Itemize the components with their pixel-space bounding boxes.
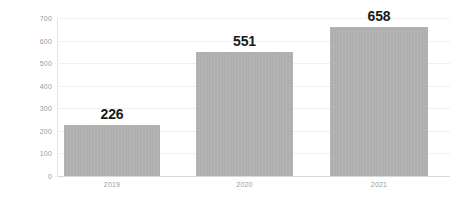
bar-value-label: 658 xyxy=(330,8,428,24)
bar xyxy=(196,52,293,176)
y-axis-tick-labels: 7006005004003002001000 xyxy=(0,18,52,176)
y-axis-tick-label: 200 xyxy=(6,127,52,134)
bar xyxy=(64,125,160,176)
x-axis-category-label: 2019 xyxy=(64,181,160,188)
y-axis-tick-label: 300 xyxy=(6,105,52,112)
y-axis-tick-label: 100 xyxy=(6,150,52,157)
x-axis-category-label: 2021 xyxy=(330,181,428,188)
x-axis-category-label: 2020 xyxy=(196,181,293,188)
y-axis-tick-label: 400 xyxy=(6,82,52,89)
y-axis-tick-label: 600 xyxy=(6,37,52,44)
y-axis-tick-label: 0 xyxy=(6,173,52,180)
axis-baseline xyxy=(57,176,450,177)
bar-chart: 7006005004003002001000 226551658 2019202… xyxy=(0,0,468,199)
bar-value-label: 551 xyxy=(196,33,293,49)
y-axis-tick-label: 700 xyxy=(6,15,52,22)
bar-value-label: 226 xyxy=(64,106,160,122)
y-axis-tick-label: 500 xyxy=(6,60,52,67)
bar xyxy=(330,27,428,176)
